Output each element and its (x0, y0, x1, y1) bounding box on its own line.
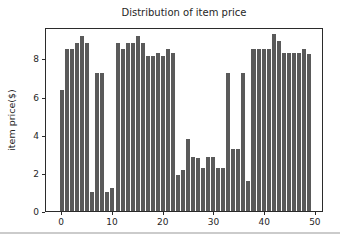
bar (146, 56, 150, 211)
bar (151, 56, 155, 211)
x-tick-mark (315, 212, 316, 215)
bar (116, 43, 120, 211)
bar (262, 49, 266, 211)
bar (206, 157, 210, 211)
x-tick-label: 20 (157, 217, 168, 227)
bar (226, 73, 230, 211)
chart-title: Distribution of item price (45, 7, 323, 19)
bar (181, 170, 185, 211)
y-tick-label: 4 (17, 131, 39, 141)
bar (136, 36, 140, 211)
y-tick-mark (42, 59, 45, 60)
bar (277, 41, 281, 211)
bar (110, 188, 114, 211)
bar (282, 53, 286, 211)
bar (90, 192, 94, 211)
x-tick-mark (163, 212, 164, 215)
y-tick-mark (42, 98, 45, 99)
bar (231, 149, 235, 211)
y-tick-mark (42, 174, 45, 175)
cell-divider-line (0, 232, 340, 234)
bar (201, 168, 205, 211)
y-tick-label: 8 (17, 54, 39, 64)
bar (272, 34, 276, 211)
bar (105, 192, 109, 211)
bar (297, 53, 301, 211)
bar (85, 43, 89, 211)
bar (186, 139, 190, 211)
bar (141, 43, 145, 211)
bar (302, 49, 306, 211)
bar (292, 53, 296, 211)
x-tick-label: 50 (309, 217, 320, 227)
plot-area (45, 28, 323, 212)
bars-group (46, 29, 322, 211)
bar (80, 36, 84, 211)
bar (267, 49, 271, 211)
y-tick-mark (42, 212, 45, 213)
x-tick-label: 30 (208, 217, 219, 227)
bar (196, 158, 200, 211)
figure: Distribution of item price item price($)… (0, 0, 340, 245)
bar (287, 53, 291, 211)
bar (126, 43, 130, 211)
bar (236, 149, 240, 211)
y-tick-label: 2 (17, 169, 39, 179)
bar (95, 73, 99, 211)
bar (216, 168, 220, 211)
bar (161, 56, 165, 211)
bar (191, 157, 195, 211)
x-tick-label: 0 (58, 217, 64, 227)
bar (100, 73, 104, 211)
bar (75, 43, 79, 211)
bar (257, 49, 261, 211)
bar (221, 168, 225, 211)
x-tick-mark (264, 212, 265, 215)
bar (171, 53, 175, 211)
bar (121, 49, 125, 211)
bar (211, 157, 215, 211)
bar (246, 181, 250, 211)
bar (65, 49, 69, 211)
y-tick-label: 0 (17, 207, 39, 217)
bar (156, 53, 160, 211)
x-tick-mark (213, 212, 214, 215)
bar (251, 49, 255, 211)
bar (176, 175, 180, 211)
bar (241, 73, 245, 211)
bar (70, 49, 74, 211)
bar (131, 43, 135, 211)
y-axis-label: item price($) (6, 89, 17, 151)
bar (166, 49, 170, 211)
y-tick-mark (42, 136, 45, 137)
x-tick-mark (61, 212, 62, 215)
x-tick-label: 40 (258, 217, 269, 227)
y-tick-label: 6 (17, 93, 39, 103)
bar (60, 90, 64, 211)
x-tick-label: 10 (106, 217, 117, 227)
x-tick-mark (112, 212, 113, 215)
bar (307, 54, 311, 211)
